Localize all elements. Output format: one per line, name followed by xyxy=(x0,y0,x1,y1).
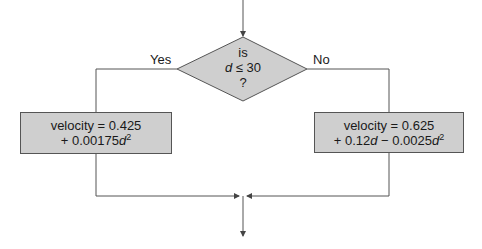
yes-box-line-2: + 0.00175d2 xyxy=(61,133,131,148)
no-box-line-2: + 0.12d − 0.0025d2 xyxy=(334,133,445,148)
decision-line-1: is xyxy=(203,45,283,60)
decision-line-2: d ≤ 30 xyxy=(203,60,283,75)
decision-text: is d ≤ 30 ? xyxy=(203,45,283,90)
no-process-box: velocity = 0.625 + 0.12d − 0.0025d2 xyxy=(314,112,464,153)
no-label: No xyxy=(313,52,330,67)
no-box-line-1: velocity = 0.625 xyxy=(344,118,435,133)
yes-process-box: velocity = 0.425 + 0.00175d2 xyxy=(20,112,172,154)
yes-box-line-1: velocity = 0.425 xyxy=(51,118,142,133)
yes-label: Yes xyxy=(150,52,171,67)
decision-line-3: ? xyxy=(203,75,283,90)
